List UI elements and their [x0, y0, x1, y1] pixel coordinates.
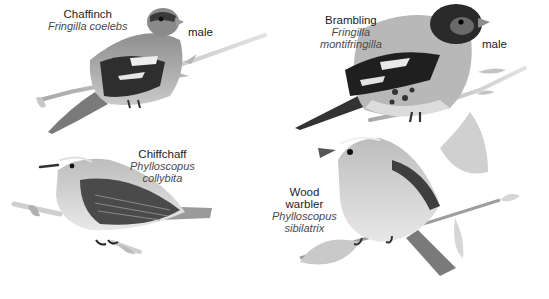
latin-name-genus: Phylloscopus — [272, 210, 337, 222]
latin-name-species: collybita — [130, 172, 195, 184]
latin-name-genus: Phylloscopus — [130, 160, 195, 172]
common-name-line1: Wood — [272, 186, 337, 198]
common-name: Chaffinch — [48, 8, 127, 20]
species-label-brambling: Brambling Fringilla montifringilla — [320, 14, 382, 50]
latin-name-genus: Fringilla — [320, 26, 382, 38]
species-label-wood-warbler: Wood warbler Phylloscopus sibilatrix — [272, 186, 337, 234]
sex-label: male — [482, 38, 507, 50]
latin-name-species: sibilatrix — [272, 222, 337, 234]
latin-name: Fringilla coelebs — [48, 20, 127, 32]
species-label-chaffinch: Chaffinch Fringilla coelebs — [48, 8, 127, 32]
common-name: Chiffchaff — [130, 148, 195, 160]
sex-label: male — [188, 26, 213, 38]
common-name: Brambling — [320, 14, 382, 26]
common-name-line2: warbler — [272, 198, 337, 210]
bird-illustrations — [0, 0, 549, 299]
latin-name-species: montifringilla — [320, 38, 382, 50]
species-label-chiffchaff: Chiffchaff Phylloscopus collybita — [130, 148, 195, 184]
